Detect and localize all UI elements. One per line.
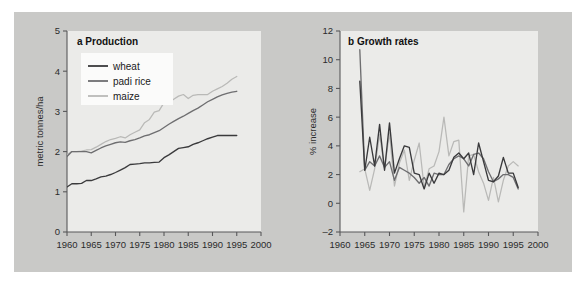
legend-label-maize: maize	[113, 91, 140, 102]
y-tick-label: 6	[328, 112, 333, 123]
panel-production: 0123451960196519701975198019851990199520…	[14, 12, 293, 272]
x-tick-label: 1990	[478, 239, 499, 250]
series-line-wheat	[67, 136, 237, 187]
x-tick-label: 1975	[129, 239, 150, 250]
figure-container: 0123451960196519701975198019851990199520…	[14, 12, 572, 272]
x-tick-label: 1980	[428, 239, 449, 250]
y-tick-label: –2	[322, 226, 333, 237]
y-tick-label: 4	[55, 66, 60, 77]
y-tick-label: 8	[328, 83, 333, 94]
x-tick-label: 1995	[226, 239, 247, 250]
y-axis-title: metric tonnes/ha	[34, 96, 45, 167]
x-tick-label: 1970	[105, 239, 126, 250]
x-tick-label: 1960	[56, 239, 77, 250]
x-tick-label: 1985	[178, 239, 199, 250]
x-tick-label: 2000	[250, 239, 271, 250]
panel-growth-rates: –202468101219601965197019751980198519901…	[293, 12, 572, 272]
x-tick-label: 1995	[503, 239, 524, 250]
chart-production: 0123451960196519701975198019851990199520…	[14, 12, 293, 272]
x-tick-label: 1965	[81, 239, 102, 250]
legend-label-wheat: wheat	[112, 61, 140, 72]
series-line-wheat	[360, 81, 518, 189]
y-tick-label: 4	[328, 140, 333, 151]
y-tick-label: 3	[55, 106, 60, 117]
y-tick-label: 2	[328, 169, 333, 180]
panel-title: b Growth rates	[348, 36, 419, 47]
legend-label-padi-rice: padi rice	[113, 76, 151, 87]
x-tick-label: 1980	[153, 239, 174, 250]
y-tick-label: 0	[55, 226, 60, 237]
y-tick-label: 0	[328, 198, 333, 209]
y-tick-label: 12	[322, 25, 333, 36]
y-tick-label: 2	[55, 146, 60, 157]
y-tick-label: 5	[55, 25, 60, 36]
x-tick-label: 1985	[453, 239, 474, 250]
y-tick-label: 1	[55, 186, 60, 197]
series-line-padi-rice	[360, 50, 518, 189]
x-tick-label: 1975	[404, 239, 425, 250]
x-tick-label: 1960	[329, 239, 350, 250]
y-tick-label: 10	[322, 54, 333, 65]
panel-title: a Production	[77, 36, 138, 47]
x-tick-label: 1970	[379, 239, 400, 250]
x-tick-label: 2000	[527, 239, 548, 250]
y-axis-title: % increase	[307, 108, 318, 155]
x-tick-label: 1990	[202, 239, 223, 250]
chart-growth-rates: –202468101219601965197019751980198519901…	[293, 12, 572, 272]
x-tick-label: 1965	[354, 239, 375, 250]
